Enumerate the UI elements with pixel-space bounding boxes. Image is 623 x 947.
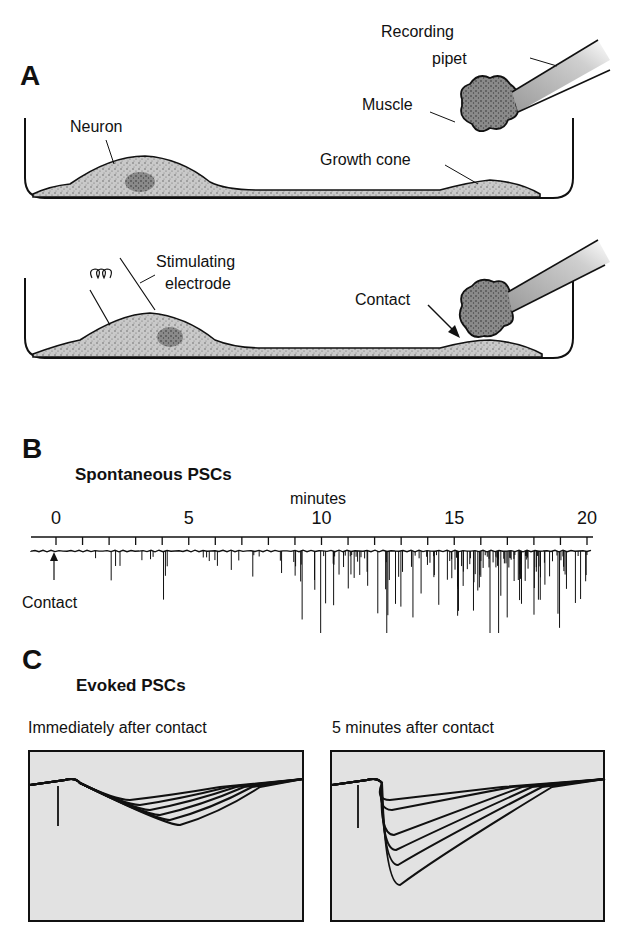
label-neuron: Neuron	[70, 118, 122, 136]
panel-letter-a: A	[20, 60, 40, 92]
caption-5-minutes: 5 minutes after contact	[332, 719, 494, 737]
panel-letter-c: C	[22, 644, 42, 676]
recording-pipet-bottom	[508, 240, 610, 312]
evoked-right-box	[331, 751, 605, 921]
x-tick-label: 20	[577, 508, 597, 529]
neuron-top	[33, 156, 540, 197]
label-electrode: electrode	[165, 275, 231, 293]
axis-label-minutes: minutes	[290, 490, 346, 508]
muscle-top	[461, 76, 518, 131]
label-stimulating: Stimulating	[156, 253, 235, 271]
nucleus-top	[125, 172, 155, 192]
dish-bottom	[25, 240, 610, 358]
label-muscle: Muscle	[362, 96, 413, 114]
x-tick-label: 15	[444, 508, 464, 529]
label-contact-a: Contact	[355, 291, 410, 309]
label-growth-cone: Growth cone	[320, 151, 411, 169]
caption-immediately: Immediately after contact	[28, 719, 207, 737]
label-contact-b: Contact	[22, 594, 77, 612]
spontaneous-psc-chart	[31, 537, 593, 633]
panel-c-title: Evoked PSCs	[76, 676, 186, 696]
panel-b-title: Spontaneous PSCs	[75, 465, 232, 485]
label-pipet: pipet	[432, 50, 467, 68]
label-recording: Recording	[381, 23, 454, 41]
panel-letter-b: B	[22, 433, 42, 465]
x-tick-label: 5	[184, 508, 194, 529]
muscle-bottom	[460, 280, 516, 337]
evoked-left-box	[29, 751, 303, 921]
x-tick-label: 10	[312, 508, 332, 529]
x-tick-label: 0	[51, 508, 61, 529]
nucleus-bottom	[157, 327, 183, 347]
